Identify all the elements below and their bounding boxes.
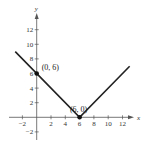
x-tick-label: 6: [78, 120, 82, 128]
point-marker: [34, 71, 39, 76]
y-tick-label: 10: [26, 41, 34, 49]
y-axis-label: y: [34, 5, 39, 13]
y-tick-label: 12: [26, 26, 34, 34]
x-tick-label: 2: [49, 120, 53, 128]
y-tick-label: 2: [30, 99, 34, 107]
x-axis-label: x: [136, 114, 141, 122]
point-label: (0, 6): [42, 63, 60, 72]
y-axis-arrow-icon: [35, 13, 39, 19]
x-tick-label: 10: [105, 120, 113, 128]
y-tick-label: 8: [30, 55, 34, 63]
x-tick-label: 8: [92, 120, 96, 128]
labeled-points: (0, 6)(6, 0): [34, 63, 87, 120]
y-tick-label: 4: [30, 85, 34, 93]
point-label: (6, 0): [70, 105, 88, 114]
y-tick-label: −2: [26, 128, 34, 136]
x-tick-label: 12: [119, 120, 127, 128]
absolute-value-graph: xy −224681012−224681012 (0, 6)(6, 0): [0, 0, 143, 147]
point-marker: [77, 115, 82, 120]
x-axis-arrow-icon: [128, 115, 134, 119]
x-tick-label: −2: [19, 120, 27, 128]
axis-ticks: −224681012−224681012: [19, 26, 127, 136]
y-tick-label: 6: [30, 70, 34, 78]
x-tick-label: 4: [64, 120, 68, 128]
